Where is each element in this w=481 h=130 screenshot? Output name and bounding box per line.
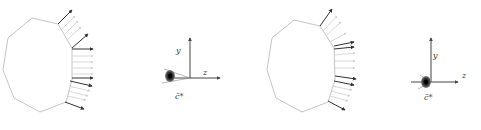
dark-arrow-icon xyxy=(335,76,356,79)
light-arrow-icon xyxy=(330,96,348,101)
panel-1-z-axis-label: z xyxy=(203,69,207,77)
light-arrow-icon xyxy=(64,21,78,35)
light-arrow-icon xyxy=(69,86,90,91)
panel-2-c-vector-label: c̄* xyxy=(424,94,432,102)
panel-2-y-axis-label: y xyxy=(433,52,438,60)
light-arrow-icon xyxy=(335,53,355,55)
diagram-stage: y z c̄* y z c̄* xyxy=(0,0,481,130)
dark-arrow-icon xyxy=(334,42,354,46)
light-arrow-icon xyxy=(331,91,350,96)
panel-1-vector-blob-core xyxy=(168,74,172,79)
light-arrow-icon xyxy=(332,86,352,90)
light-arrow-icon xyxy=(67,27,81,40)
light-arrow-icon xyxy=(68,91,88,96)
panel-1-y-axis-label: y xyxy=(176,47,181,55)
light-arrow-icon xyxy=(61,16,75,30)
panel-1-polygon xyxy=(3,18,72,112)
panel-2-polygon xyxy=(267,20,335,112)
light-arrow-icon xyxy=(330,33,346,42)
panel-2-vector-blob-core xyxy=(424,80,428,85)
dark-arrow-icon xyxy=(70,81,92,86)
panel-1-c-vector-label: c̄* xyxy=(175,93,183,101)
dark-arrow-icon xyxy=(334,47,354,49)
dark-arrow-icon xyxy=(65,102,84,109)
dark-arrow-icon xyxy=(58,10,72,24)
dark-arrow-icon xyxy=(328,101,345,110)
diagram-canvas xyxy=(0,0,481,130)
panel-2-z-axis-label: z xyxy=(462,72,466,80)
light-arrow-icon xyxy=(67,96,86,100)
dark-arrow-icon xyxy=(72,34,88,48)
light-arrow-icon xyxy=(326,22,341,36)
dark-arrow-icon xyxy=(334,81,354,85)
